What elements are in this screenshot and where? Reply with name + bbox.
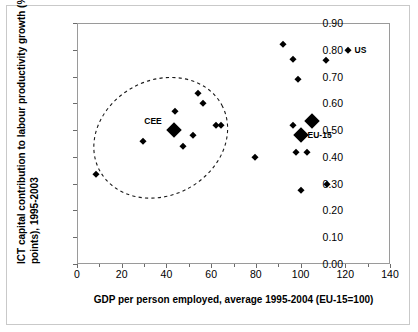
cee-cluster-dashed-ellipse <box>78 24 391 265</box>
y-tick-mark <box>73 103 77 104</box>
x-minor-tick-mark <box>323 264 324 267</box>
y-tick-mark <box>73 184 77 185</box>
y-tick-label: 0.60 <box>323 97 343 109</box>
x-tick-label: 140 <box>381 268 399 280</box>
x-minor-tick-mark <box>189 264 190 267</box>
x-tick-label: 0 <box>74 268 80 280</box>
y-tick-label: 0.20 <box>323 204 343 216</box>
x-tick-label: 20 <box>116 268 128 280</box>
y-tick-label: 0.10 <box>323 231 343 243</box>
x-tick-label: 80 <box>250 268 262 280</box>
x-minor-tick-mark <box>368 264 369 267</box>
x-axis-title: GDP per person employed, average 1995-20… <box>77 294 390 305</box>
y-axis <box>0 0 77 332</box>
figure-container: ICT capital contribution to labour produ… <box>0 0 418 332</box>
x-tick-mark <box>256 264 257 268</box>
y-tick-label: 0.40 <box>323 151 343 163</box>
x-tick-mark <box>345 264 346 268</box>
y-tick-mark <box>73 237 77 238</box>
x-tick-mark <box>301 264 302 268</box>
x-tick-label: 120 <box>337 268 355 280</box>
data-point-label-cee: CEE <box>144 116 161 126</box>
x-tick-label: 100 <box>292 268 310 280</box>
x-minor-tick-mark <box>99 264 100 267</box>
y-tick-mark <box>73 23 77 24</box>
x-tick-label: 60 <box>205 268 217 280</box>
plot-area <box>77 23 390 264</box>
y-tick-mark <box>73 210 77 211</box>
x-minor-tick-mark <box>144 264 145 267</box>
x-tick-mark <box>211 264 212 268</box>
y-tick-label: 0.80 <box>323 44 343 56</box>
x-tick-mark <box>166 264 167 268</box>
data-point-label-eu-15: EU-15 <box>308 130 332 140</box>
x-tick-label: 40 <box>161 268 173 280</box>
x-tick-mark <box>122 264 123 268</box>
x-tick-mark <box>77 264 78 268</box>
y-tick-mark <box>73 130 77 131</box>
x-tick-mark <box>390 264 391 268</box>
y-tick-label: 0.90 <box>323 17 343 29</box>
y-tick-mark <box>73 77 77 78</box>
x-minor-tick-mark <box>278 264 279 267</box>
y-tick-mark <box>73 50 77 51</box>
x-minor-tick-mark <box>234 264 235 267</box>
y-tick-mark <box>73 157 77 158</box>
y-tick-label: 0.70 <box>323 71 343 83</box>
data-point-label-us: US <box>355 45 367 55</box>
